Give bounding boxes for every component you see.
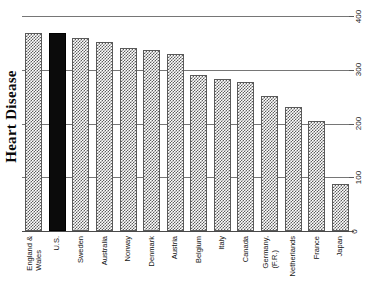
- y-axis-tick-labels: 0100200300400: [352, 0, 375, 232]
- bar-slot: [69, 0, 93, 232]
- category-label[interactable]: Australia: [100, 236, 109, 265]
- bar[interactable]: [72, 38, 89, 232]
- category-slot: Denmark: [140, 234, 164, 288]
- category-slot: Australia: [93, 234, 117, 288]
- category-label[interactable]: Sweden: [77, 236, 86, 263]
- bar-slot: [281, 0, 305, 232]
- category-slot: Germany, (F.R.): [258, 234, 282, 288]
- category-slot: Belgium: [187, 234, 211, 288]
- category-slot: France: [305, 234, 329, 288]
- category-label[interactable]: Italy: [218, 236, 227, 250]
- bar-slot: [187, 0, 211, 232]
- bar-slot: [211, 0, 235, 232]
- bar-slot: [46, 0, 70, 232]
- category-label[interactable]: England & Wales: [25, 236, 42, 271]
- y-tick-0: 0: [352, 224, 375, 238]
- category-slot: U.S.: [46, 234, 70, 288]
- y-tick-label: 200: [354, 117, 363, 130]
- bar-slot: [163, 0, 187, 232]
- category-label[interactable]: Canada: [242, 236, 251, 262]
- bar[interactable]: [285, 107, 302, 231]
- bar[interactable]: [49, 33, 66, 231]
- bar-slot: [140, 0, 164, 232]
- y-tick-400: 400: [352, 9, 375, 23]
- category-label[interactable]: Belgium: [195, 236, 204, 263]
- bar-slot: [305, 0, 329, 232]
- category-slot: Norway: [116, 234, 140, 288]
- y-axis-title-label: Heart Disease: [3, 70, 20, 163]
- bar-slot: [234, 0, 258, 232]
- bar-series: [22, 0, 352, 232]
- y-tick-100: 100: [352, 170, 375, 184]
- y-tick-300: 300: [352, 63, 375, 77]
- category-slot: England & Wales: [22, 234, 46, 288]
- category-label[interactable]: Austria: [171, 236, 180, 259]
- bar-slot: [329, 0, 353, 232]
- bar-slot: [116, 0, 140, 232]
- category-slot: Netherlands: [281, 234, 305, 288]
- bar[interactable]: [96, 42, 113, 231]
- category-label[interactable]: Japan: [336, 236, 345, 256]
- bar-slot: [93, 0, 117, 232]
- x-axis-category-labels: England & WalesU.S.SwedenAustraliaNorway…: [22, 234, 352, 288]
- heart-disease-bar-chart: Heart Disease 0100200300400 England & Wa…: [0, 0, 375, 288]
- plot-area: [22, 0, 352, 232]
- y-tick-label: 300: [354, 63, 363, 76]
- y-tick-200: 200: [352, 117, 375, 131]
- category-label[interactable]: U.S.: [53, 236, 62, 251]
- bar[interactable]: [332, 184, 349, 231]
- y-tick-label: 400: [354, 9, 363, 22]
- category-label[interactable]: Denmark: [147, 236, 156, 266]
- bar[interactable]: [167, 54, 184, 231]
- bar[interactable]: [214, 79, 231, 231]
- category-slot: Austria: [163, 234, 187, 288]
- category-slot: Sweden: [69, 234, 93, 288]
- category-slot: Japan: [329, 234, 353, 288]
- y-tick-label: 0: [350, 229, 359, 233]
- y-tick-label: 100: [354, 171, 363, 184]
- bar[interactable]: [190, 75, 207, 231]
- bar-slot: [22, 0, 46, 232]
- bar[interactable]: [25, 33, 42, 231]
- bar[interactable]: [143, 50, 160, 231]
- bar[interactable]: [308, 121, 325, 231]
- category-slot: Canada: [234, 234, 258, 288]
- category-label[interactable]: France: [312, 236, 321, 259]
- category-label[interactable]: Netherlands: [289, 236, 298, 276]
- category-label[interactable]: Norway: [124, 236, 133, 261]
- bar[interactable]: [261, 96, 278, 231]
- category-slot: Italy: [211, 234, 235, 288]
- y-axis-title: Heart Disease: [0, 0, 22, 232]
- bar-slot: [258, 0, 282, 232]
- bar[interactable]: [120, 48, 137, 231]
- category-label[interactable]: Germany, (F.R.): [261, 236, 278, 268]
- bar[interactable]: [237, 82, 254, 231]
